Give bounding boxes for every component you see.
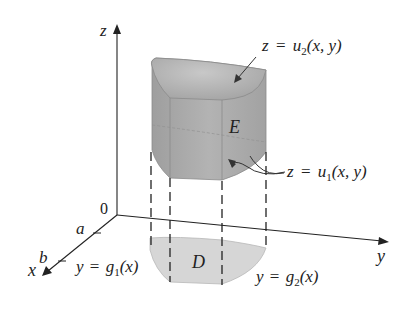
y-axis <box>117 215 382 241</box>
tick-label-b: b <box>39 248 48 267</box>
solid-e <box>152 58 267 180</box>
y-axis-arrow-icon <box>378 237 389 245</box>
upper-surface <box>152 58 267 100</box>
type-i-region-diagram: z y x 0 a b E D z = u2(x, y) z = u1(x, y… <box>0 0 408 309</box>
lower-surface-equation: z = u1(x, y) <box>286 162 367 183</box>
z-axis-arrow-icon <box>113 24 121 34</box>
upper-surface-equation: z = u2(x, y) <box>261 36 342 57</box>
x-axis-arrow-icon <box>42 266 52 276</box>
y-axis-label: y <box>375 246 385 266</box>
solid-label-e: E <box>228 117 240 137</box>
tick-label-a: a <box>76 219 85 238</box>
region-d <box>150 237 266 284</box>
right-boundary-equation: y = g2(x) <box>254 267 319 288</box>
origin-label: 0 <box>100 200 108 217</box>
z-axis-label: z <box>99 21 107 40</box>
region-label-d: D <box>191 252 205 272</box>
left-boundary-equation: y = g1(x) <box>74 257 139 278</box>
x-axis-label: x <box>27 260 36 280</box>
